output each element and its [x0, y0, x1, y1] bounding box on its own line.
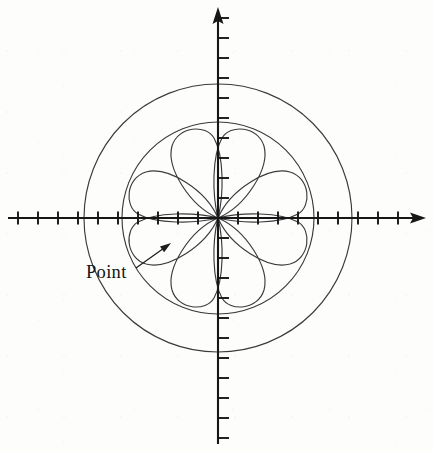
axes-group	[8, 7, 426, 444]
point-arrowhead-icon	[160, 243, 171, 252]
point-annotation: Point	[86, 243, 171, 282]
point-label: Point	[86, 262, 127, 282]
polar-plot: Point	[0, 0, 433, 452]
figure-canvas: Point	[0, 0, 433, 452]
